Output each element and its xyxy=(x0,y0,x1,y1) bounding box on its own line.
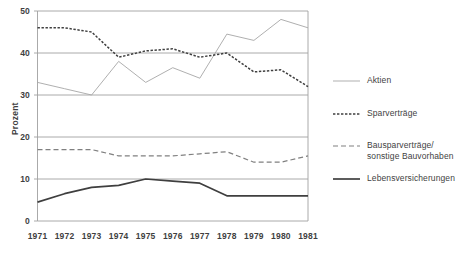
y-tick-label: 30 xyxy=(8,90,30,100)
legend-label-3: Lebensversicherungen xyxy=(367,173,455,184)
x-tick-label: 1978 xyxy=(212,231,242,241)
y-tick-label: 10 xyxy=(8,174,30,184)
x-tick-label: 1977 xyxy=(185,231,215,241)
legend-label-0: Aktien xyxy=(367,75,391,86)
legend-label-2: Bausparverträge/ xyxy=(367,140,434,151)
legend-label-1: Sparverträge xyxy=(367,108,417,119)
x-tick-label: 1974 xyxy=(104,231,134,241)
x-tick-label: 1971 xyxy=(23,231,53,241)
x-tick-label: 1980 xyxy=(266,231,296,241)
legend-label-2-line2: sonstige Bauvorhaben xyxy=(367,151,454,162)
x-tick-label: 1981 xyxy=(293,231,323,241)
y-tick-label: 0 xyxy=(8,216,30,226)
y-tick-label: 40 xyxy=(8,48,30,58)
series-line-1 xyxy=(38,28,309,87)
x-tick-label: 1975 xyxy=(131,231,161,241)
y-tick-label: 50 xyxy=(8,6,30,16)
y-tick-label: 20 xyxy=(8,132,30,142)
x-tick-label: 1979 xyxy=(239,231,269,241)
series-line-2 xyxy=(38,150,309,163)
x-tick-label: 1976 xyxy=(158,231,188,241)
series-line-3 xyxy=(38,179,309,202)
x-tick-label: 1973 xyxy=(77,231,107,241)
series-line-0 xyxy=(38,19,309,95)
x-tick-label: 1972 xyxy=(50,231,80,241)
